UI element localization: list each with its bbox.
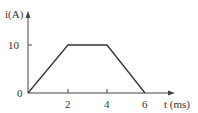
x-tick-label-6: 6 — [142, 98, 148, 110]
x-tick-label-2: 2 — [65, 98, 71, 110]
x-tick-label-4: 4 — [104, 98, 110, 110]
y-axis-arrow-icon — [26, 11, 31, 18]
x-axis-label: t (ms) — [164, 98, 190, 111]
current-waveform — [28, 45, 145, 93]
x-axis-arrow-icon — [168, 91, 175, 96]
y-axis-label: i(A) — [5, 8, 24, 21]
y-tick-label-0: 0 — [17, 87, 23, 99]
trapezoid-current-chart: i(A) 10 0 2 4 6 t (ms) — [0, 0, 198, 113]
y-tick-label-10: 10 — [8, 39, 20, 51]
